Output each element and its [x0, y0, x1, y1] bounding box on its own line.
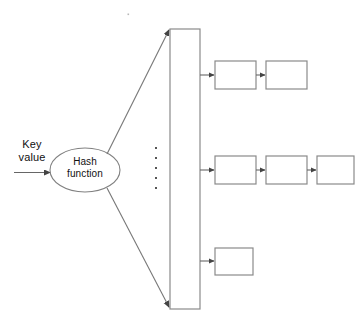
hash-function-label: Hash function [57, 156, 113, 180]
chain-bottom-node-1 [215, 248, 253, 275]
vertical-ellipsis [155, 147, 157, 189]
hash-to-table-bottom-arrow [107, 188, 169, 307]
diagram-canvas: Key value Hash function [0, 0, 359, 329]
key-value-label: Key value [4, 138, 60, 164]
stray-dot-artifact [128, 14, 130, 16]
chain-top-node-1 [215, 61, 256, 89]
hash-table-diagram [0, 0, 359, 329]
chain-middle-node-3 [317, 156, 354, 184]
chain-top-node-2 [266, 61, 307, 89]
chain-middle-node-2 [266, 156, 307, 184]
hash-to-table-top-arrow [107, 30, 169, 154]
chain-middle-node-1 [215, 156, 256, 184]
hash-table-column [170, 29, 200, 309]
